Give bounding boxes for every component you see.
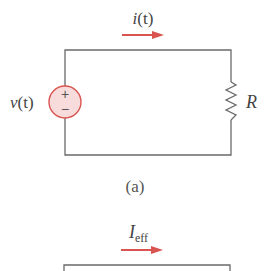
source-minus-sign: − xyxy=(61,101,69,117)
figure-b: Ieff xyxy=(64,222,230,271)
circuit-wires-b xyxy=(64,265,230,271)
source-label: v(t) xyxy=(10,93,34,112)
voltage-source-icon: + − xyxy=(49,86,81,118)
resistor-label: R xyxy=(245,92,257,112)
figure-caption-a: (a) xyxy=(126,177,145,196)
circuit-wires xyxy=(65,50,231,155)
effective-current-arrow-icon xyxy=(121,246,163,254)
effective-current-label: Ieff xyxy=(128,222,148,245)
source-plus-sign: + xyxy=(61,86,69,102)
current-label: i(t) xyxy=(133,9,154,28)
resistor-icon xyxy=(226,82,236,120)
figure-a: i(t) R + − v(t) (a) xyxy=(10,9,257,196)
current-arrow-icon xyxy=(122,31,164,39)
circuit-diagram: i(t) R + − v(t) (a) Ieff xyxy=(0,0,267,271)
